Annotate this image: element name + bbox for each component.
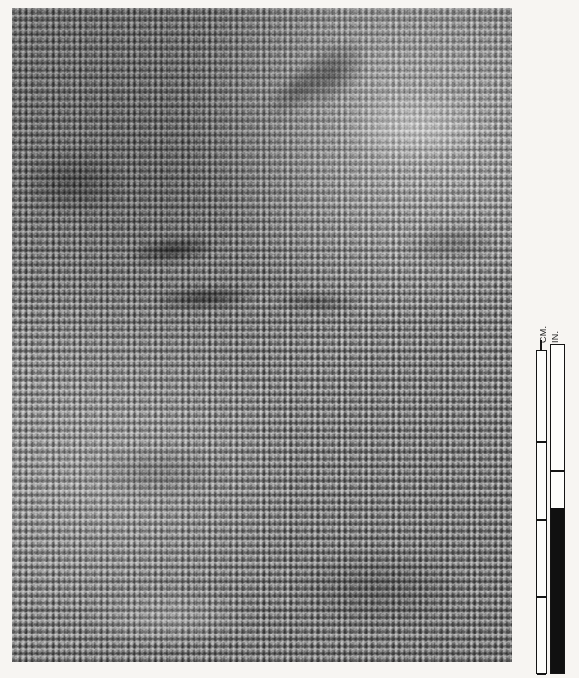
screenshot-canvas: CM. IN. [0,0,579,678]
cm-tick [537,596,546,598]
centimeter-bar [536,350,547,674]
textile-photograph [12,8,512,662]
cm-tick [537,441,546,443]
in-tick [551,470,564,472]
measurement-scale: CM. IN. [535,310,567,674]
scale-unit-labels: CM. IN. [535,310,567,344]
inch-bar-black [551,508,564,673]
cm-tick [537,673,546,675]
film-grain-layer-2 [12,8,512,662]
scale-bars [535,344,567,674]
scale-in-label: IN. [551,331,560,343]
inch-bar [550,344,565,674]
cm-tick [537,519,546,521]
